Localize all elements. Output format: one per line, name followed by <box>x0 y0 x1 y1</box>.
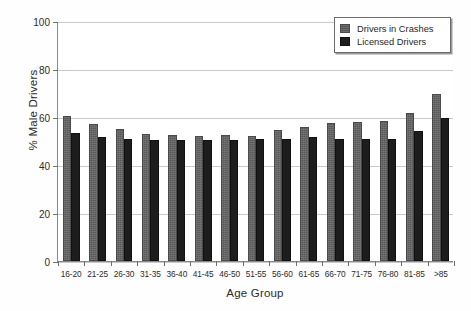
bar-licensed <box>335 139 343 261</box>
x-tick-label: 46-50 <box>219 269 240 279</box>
x-tick-mark <box>375 261 376 266</box>
x-tick-label: >85 <box>434 269 448 279</box>
bar-licensed <box>441 118 449 261</box>
bar-crashes <box>89 124 97 261</box>
y-axis-title: % Male Drivers <box>27 15 39 205</box>
x-axis-title: Age Group <box>57 287 453 299</box>
bar-licensed <box>177 140 185 261</box>
x-tick-label: 76-80 <box>378 269 399 279</box>
x-tick-mark <box>454 261 455 266</box>
x-tick-label: 31-35 <box>140 269 161 279</box>
bar-crashes <box>432 94 440 261</box>
bar-licensed <box>203 140 211 261</box>
x-tick-label: 66-70 <box>325 269 346 279</box>
bar-crashes <box>63 116 71 261</box>
x-tick-label: 21-25 <box>87 269 108 279</box>
legend-label: Licensed Drivers <box>357 37 426 47</box>
bar-crashes <box>406 113 414 261</box>
bar-crashes <box>380 121 388 261</box>
x-tick-mark <box>216 261 217 266</box>
x-tick-mark <box>428 261 429 266</box>
y-tick-label: 20 <box>39 209 50 220</box>
bar-chart: % Male Drivers 020406080100 16-2021-2526… <box>0 0 471 311</box>
plot-area: 020406080100 16-2021-2526-3031-3536-4041… <box>57 22 453 262</box>
bar-licensed <box>71 133 79 261</box>
x-tick-label: 51-55 <box>246 269 267 279</box>
y-tick-label: 0 <box>44 257 50 268</box>
bar-licensed <box>230 140 238 261</box>
bar-crashes <box>353 122 361 261</box>
bar-licensed <box>309 137 317 261</box>
bar-crashes <box>116 129 124 261</box>
y-tick-label: 100 <box>33 17 50 28</box>
bars-layer <box>58 22 453 261</box>
x-tick-mark <box>84 261 85 266</box>
bar-crashes <box>195 136 203 261</box>
y-tick-label: 80 <box>39 65 50 76</box>
bar-licensed <box>124 139 132 261</box>
bar-crashes <box>274 130 282 261</box>
x-tick-mark <box>269 261 270 266</box>
x-tick-label: 36-40 <box>166 269 187 279</box>
bar-licensed <box>414 131 422 261</box>
x-tick-label: 16-20 <box>61 269 82 279</box>
x-tick-mark <box>296 261 297 266</box>
x-tick-mark <box>348 261 349 266</box>
bar-crashes <box>142 134 150 261</box>
x-tick-mark <box>58 261 59 266</box>
bar-licensed <box>98 137 106 261</box>
bar-crashes <box>248 136 256 261</box>
x-tick-mark <box>243 261 244 266</box>
legend-item: Drivers in Crashes <box>340 22 445 35</box>
bar-crashes <box>168 135 176 261</box>
x-tick-label: 41-45 <box>193 269 214 279</box>
x-tick-label: 61-65 <box>298 269 319 279</box>
chart-legend: Drivers in CrashesLicensed Drivers <box>334 17 451 53</box>
x-tick-mark <box>111 261 112 266</box>
x-tick-mark <box>401 261 402 266</box>
gridline <box>58 262 453 263</box>
x-tick-label: 26-30 <box>114 269 135 279</box>
x-tick-label: 56-60 <box>272 269 293 279</box>
legend-swatch-icon <box>340 24 350 33</box>
bar-licensed <box>388 139 396 261</box>
x-tick-mark <box>164 261 165 266</box>
legend-label: Drivers in Crashes <box>357 24 433 34</box>
bar-licensed <box>150 140 158 261</box>
bar-licensed <box>256 139 264 261</box>
bar-licensed <box>362 139 370 261</box>
legend-swatch-icon <box>340 37 350 46</box>
x-tick-mark <box>137 261 138 266</box>
bar-crashes <box>221 135 229 261</box>
legend-item: Licensed Drivers <box>340 35 445 48</box>
x-tick-mark <box>190 261 191 266</box>
bar-crashes <box>327 123 335 261</box>
x-tick-label: 71-75 <box>351 269 372 279</box>
y-tick-label: 40 <box>39 161 50 172</box>
x-tick-mark <box>322 261 323 266</box>
x-tick-label: 81-85 <box>404 269 425 279</box>
y-tick-label: 60 <box>39 113 50 124</box>
bar-crashes <box>300 127 308 261</box>
bar-licensed <box>282 139 290 261</box>
